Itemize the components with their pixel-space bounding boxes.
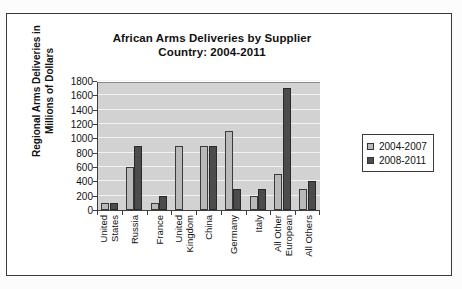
x-category-label: All Others <box>295 215 320 287</box>
bar-group <box>271 82 296 210</box>
x-category-label: All OtherEuropean <box>270 215 295 287</box>
bar <box>308 181 316 210</box>
y-axis-title-line-1: Regional Arms Deliveries in <box>31 16 44 166</box>
y-tick-label: 1600 <box>53 91 93 101</box>
bar <box>175 146 183 211</box>
bar <box>159 196 167 210</box>
x-category-label-text: Germany <box>228 215 239 254</box>
bar <box>250 196 258 210</box>
plot-area <box>97 82 320 211</box>
y-tick-label: 1800 <box>53 77 93 87</box>
bar <box>134 146 142 211</box>
bar <box>274 174 282 210</box>
bar-group <box>247 82 272 210</box>
y-tick-label: 800 <box>53 149 93 159</box>
x-axis-category-labels: UnitedStatesRussiaFranceUnitedKingdomChi… <box>97 215 320 287</box>
x-category-label-text: All Others <box>302 215 313 257</box>
legend-swatch-icon <box>367 143 374 150</box>
x-category-label-text: UnitedStates <box>98 215 120 242</box>
bar <box>225 131 233 210</box>
x-category-label: China <box>196 215 221 287</box>
chart-title-line-1: African Arms Deliveries by Supplier <box>113 32 312 44</box>
y-tick-label: 1000 <box>53 134 93 144</box>
bar <box>101 203 109 210</box>
bar-group <box>148 82 173 210</box>
y-axis-tick-labels: 180016001400120010008006004002000 <box>51 82 93 211</box>
bar-group <box>123 82 148 210</box>
x-category-label: Italy <box>246 215 271 287</box>
y-tick-label: 0 <box>53 206 93 216</box>
chart-title: African Arms Deliveries by Supplier Coun… <box>47 32 377 59</box>
gridline <box>98 80 320 81</box>
y-tick-label: 600 <box>53 163 93 173</box>
chart-legend: 2004-20072008-2011 <box>362 134 434 172</box>
bar <box>299 189 307 211</box>
x-category-label: Germany <box>221 215 246 287</box>
bar <box>151 203 159 210</box>
bar <box>200 146 208 211</box>
y-tick-label: 400 <box>53 177 93 187</box>
bar <box>209 146 217 211</box>
bar-group <box>172 82 197 210</box>
legend-item[interactable]: 2008-2011 <box>367 153 427 167</box>
x-category-label-text: Russia <box>129 215 140 244</box>
legend-label: 2004-2007 <box>379 141 427 152</box>
bar <box>283 88 291 210</box>
x-category-label: France <box>147 215 172 287</box>
plot-area-wrapper <box>97 82 320 211</box>
x-category-label-text: China <box>203 215 214 240</box>
y-tick-label: 1400 <box>53 106 93 116</box>
x-category-label-text: France <box>153 215 164 245</box>
legend-swatch-icon <box>367 157 374 164</box>
bar-group <box>296 82 321 210</box>
chart-frame: African Arms Deliveries by Supplier Coun… <box>6 13 452 276</box>
x-category-label-text: Italy <box>253 215 264 232</box>
y-tick-label: 1200 <box>53 120 93 130</box>
bars-layer <box>98 82 320 210</box>
bar <box>126 167 134 210</box>
bar <box>233 189 241 211</box>
bar <box>110 203 118 210</box>
x-category-label-text: All OtherEuropean <box>272 215 294 256</box>
y-tick-label: 200 <box>53 192 93 202</box>
bar <box>258 189 266 211</box>
bar-group <box>98 82 123 210</box>
legend-item[interactable]: 2004-2007 <box>367 139 427 153</box>
legend-label: 2008-2011 <box>379 155 426 166</box>
x-category-label-text: UnitedKingdom <box>173 215 195 253</box>
bar-group <box>197 82 222 210</box>
x-category-label: UnitedKingdom <box>171 215 196 287</box>
x-category-label: Russia <box>122 215 147 287</box>
page-root: African Arms Deliveries by Supplier Coun… <box>0 0 462 289</box>
chart-title-line-2: Country: 2004-2011 <box>47 46 377 60</box>
bar-group <box>222 82 247 210</box>
x-category-label: UnitedStates <box>97 215 122 287</box>
